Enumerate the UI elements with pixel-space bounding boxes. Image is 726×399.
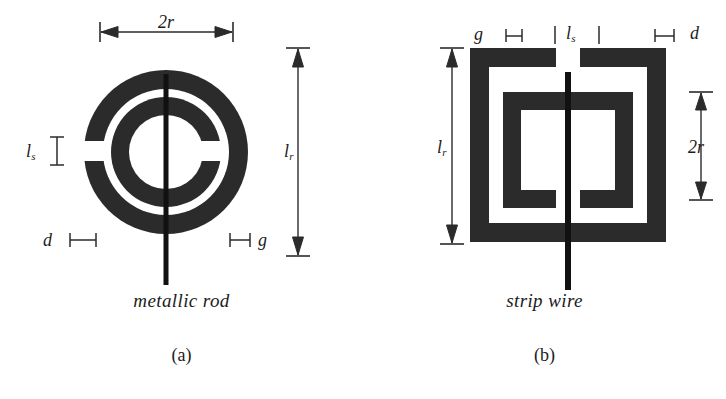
inner-split-ring-b bbox=[363, 0, 726, 399]
dimension-label-g-a: g bbox=[258, 231, 267, 249]
dimension-label-lr-b: lr bbox=[437, 138, 447, 158]
ls-subscript-b: s bbox=[571, 32, 575, 44]
lr-subscript-b: r bbox=[442, 146, 446, 158]
panel-b-drawing bbox=[363, 0, 726, 399]
lr-subscript-a: r bbox=[289, 150, 293, 162]
ls-subscript-a: s bbox=[31, 150, 35, 162]
panel-a-drawing bbox=[0, 0, 363, 399]
panel-a-circular-srr: 2r lr ls d g metallic rod (a) bbox=[0, 0, 363, 399]
panel-label-b: (b) bbox=[363, 345, 726, 366]
dimension-label-d-a: d bbox=[43, 231, 52, 249]
inner-split-ring-a bbox=[0, 0, 363, 399]
dimension-label-2r-a: 2r bbox=[158, 13, 174, 31]
dimension-label-lr-a: lr bbox=[284, 142, 294, 162]
caption-metallic-rod: metallic rod bbox=[0, 290, 363, 312]
caption-strip-wire: strip wire bbox=[363, 290, 726, 312]
metallic-rod-a bbox=[164, 74, 169, 285]
figure-container: 2r lr ls d g metallic rod (a) bbox=[0, 0, 726, 399]
dimension-label-g-b: g bbox=[474, 25, 483, 43]
panel-label-a: (a) bbox=[0, 345, 363, 366]
dimension-label-ls-b: ls bbox=[566, 24, 576, 44]
dimension-label-2r-b: 2r bbox=[688, 138, 704, 156]
strip-wire-b bbox=[565, 72, 571, 290]
panel-b-square-srr: g ls d lr 2r strip wire (b) bbox=[363, 0, 726, 399]
dimension-label-ls-a: ls bbox=[26, 142, 36, 162]
dimension-label-d-b: d bbox=[690, 24, 699, 42]
